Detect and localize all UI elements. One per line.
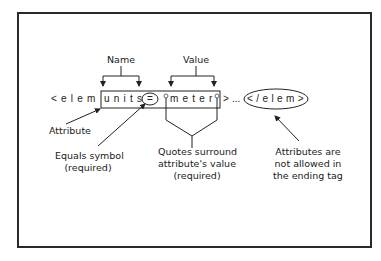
- name-label: Name: [104, 54, 138, 66]
- ellipsis-text: ...: [232, 93, 240, 105]
- close-bracket-text: >: [223, 93, 230, 105]
- value-bracket: [171, 66, 214, 86]
- equals-text: =: [147, 93, 157, 105]
- open-quote-marker: [164, 94, 168, 98]
- quotes-connector: [166, 98, 217, 148]
- attribute-label: Attribute: [44, 125, 96, 137]
- attr-name-text: units: [104, 93, 146, 105]
- open-tag-text: <elem: [51, 93, 100, 105]
- name-bracket: [103, 66, 139, 86]
- value-label: Value: [178, 54, 214, 66]
- attr-value-text: meter: [170, 93, 217, 105]
- end-tag-text: </elem>: [247, 93, 307, 105]
